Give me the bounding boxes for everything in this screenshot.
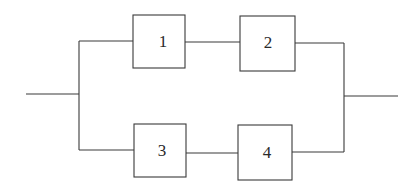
block-1: 1 <box>133 15 185 68</box>
block-2-label: 2 <box>264 33 273 52</box>
block-1-label: 1 <box>159 32 168 51</box>
block-2: 2 <box>240 16 295 71</box>
block-3: 3 <box>134 124 186 177</box>
block-4-label: 4 <box>263 143 272 162</box>
block-4: 4 <box>238 125 292 180</box>
series-parallel-diagram: 1 2 3 4 <box>0 0 418 195</box>
block-3-label: 3 <box>158 141 167 160</box>
